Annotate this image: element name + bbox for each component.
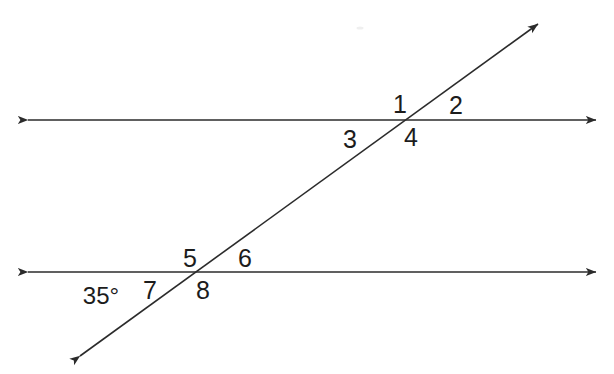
angle-label-6: 6 [238, 246, 252, 271]
angle-measure-35-degrees: 35° [83, 284, 119, 308]
scan-speck-artifact [357, 27, 364, 30]
angle-label-3: 3 [343, 127, 357, 152]
angle-label-8: 8 [196, 278, 210, 303]
angle-label-2: 2 [449, 93, 463, 118]
geometry-figure: 1 2 3 4 5 6 7 8 35° [0, 0, 614, 374]
angle-label-5: 5 [183, 246, 197, 271]
transversal-line [80, 24, 538, 356]
angle-label-1: 1 [393, 92, 407, 117]
figure-canvas [0, 0, 614, 374]
angle-label-7: 7 [143, 278, 157, 303]
angle-label-4: 4 [404, 125, 418, 150]
